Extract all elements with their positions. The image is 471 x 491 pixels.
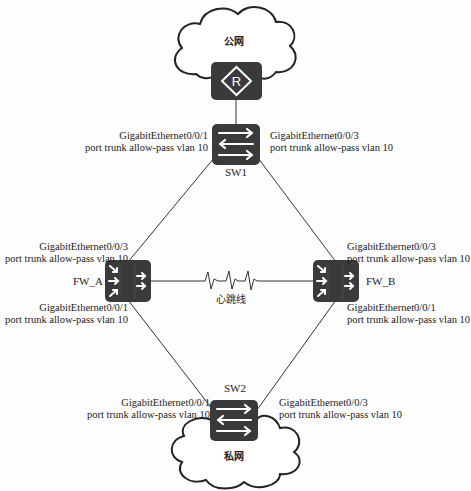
port-interface: GigabitEthernet0/0/1 [347, 302, 470, 314]
sw2-switch[interactable] [210, 400, 258, 441]
port-config: port trunk allow-pass vlan 10 [347, 314, 470, 326]
link-fwa-sw2 [128, 300, 213, 410]
port-config: port trunk allow-pass vlan 10 [270, 142, 393, 154]
port-interface: GigabitEthernet0/0/3 [270, 130, 393, 142]
sw1-switch[interactable] [212, 124, 260, 165]
port-config: port trunk allow-pass vlan 10 [85, 142, 208, 154]
svg-text:R: R [232, 74, 241, 89]
port-config: port trunk allow-pass vlan 10 [279, 409, 402, 421]
router-device[interactable]: R [211, 62, 262, 100]
fw-b-bottom-port-label: GigabitEthernet0/0/1 port trunk allow-pa… [347, 302, 470, 326]
fw-a-firewall[interactable] [105, 260, 151, 302]
port-interface: GigabitEthernet0/0/1 [85, 130, 208, 142]
port-config: port trunk allow-pass vlan 10 [347, 253, 470, 265]
fw-b-top-port-label: GigabitEthernet0/0/3 port trunk allow-pa… [347, 241, 470, 265]
link-sw1-fwa [128, 158, 214, 262]
port-interface: GigabitEthernet0/0/1 [5, 302, 128, 314]
sw1-right-port-label: GigabitEthernet0/0/3 port trunk allow-pa… [270, 130, 393, 154]
port-interface: GigabitEthernet0/0/3 [347, 241, 470, 253]
link-fwb-sw2 [257, 300, 336, 410]
heartbeat-line [150, 271, 313, 290]
fw-a-name: FW_A [73, 275, 103, 287]
port-interface: GigabitEthernet0/0/3 [5, 241, 128, 253]
heartbeat-label: 心跳线 [216, 291, 246, 306]
sw1-left-port-label: GigabitEthernet0/0/1 port trunk allow-pa… [85, 130, 208, 154]
port-config: port trunk allow-pass vlan 10 [87, 409, 210, 421]
fw-b-firewall[interactable] [313, 260, 359, 302]
port-interface: GigabitEthernet0/0/3 [279, 397, 402, 409]
public-network-label: 公网 [224, 33, 244, 48]
fw-a-top-port-label: GigabitEthernet0/0/3 port trunk allow-pa… [5, 241, 128, 265]
sw2-name: SW2 [224, 382, 246, 394]
link-sw1-fwb [258, 158, 336, 262]
sw1-name: SW1 [225, 166, 247, 178]
fw-a-bottom-port-label: GigabitEthernet0/0/1 port trunk allow-pa… [5, 302, 128, 326]
sw2-right-port-label: GigabitEthernet0/0/3 port trunk allow-pa… [279, 397, 402, 421]
private-network-label: 私网 [224, 448, 244, 463]
port-config: port trunk allow-pass vlan 10 [5, 253, 128, 265]
fw-b-name: FW_B [366, 275, 395, 287]
port-interface: GigabitEthernet0/0/1 [87, 397, 210, 409]
network-topology-diagram: R [0, 0, 471, 491]
sw2-left-port-label: GigabitEthernet0/0/1 port trunk allow-pa… [87, 397, 210, 421]
port-config: port trunk allow-pass vlan 10 [5, 314, 128, 326]
